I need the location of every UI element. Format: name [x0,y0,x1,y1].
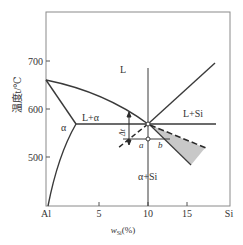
x-tick-15: 15 [182,208,192,219]
x-tick-10: 10 [143,208,153,219]
solvus-curve [48,124,76,206]
region-label-liquid: L [120,64,126,75]
y-tick-600: 600 [28,104,43,115]
region-label-liquid-alpha: L+α [82,112,100,123]
x-axis-label: wSi(%) [111,225,136,236]
x-tick-al: Al [41,208,51,219]
x-axis-label-unit: (%) [122,225,136,235]
al-si-phase-diagram: L L+α L+Si α α+Si Δt a b 700 600 500 温度t… [0,0,243,245]
region-label-liquid-si: L+Si [183,108,203,119]
y-tick-500: 500 [28,152,43,163]
y-tick-700: 700 [28,56,43,67]
point-a-label: a [139,140,144,150]
delta-t-label: Δt [118,128,127,137]
point-b-label: b [158,140,163,150]
region-label-alpha: α [61,122,67,133]
y-axis-ticks [46,61,50,157]
eutectic-point [146,122,150,126]
region-label-alpha-si: α+Si [138,171,157,182]
y-axis-label: 温度t/℃ [11,77,23,114]
x-tick-5: 5 [97,208,102,219]
liquidus-si-line [148,63,215,124]
delta-t-arrow [127,112,131,145]
x-tick-si: Si [225,208,234,219]
x-axis-ticks [99,202,187,206]
undercooled-point [146,137,150,141]
